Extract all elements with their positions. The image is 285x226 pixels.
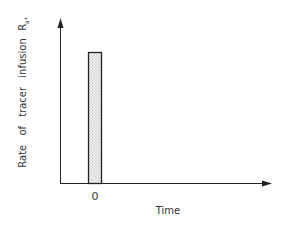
y-axis-arrow-icon <box>58 18 64 28</box>
x-axis-arrow-icon <box>262 181 272 187</box>
y-axis-label: Rate of tracer infusion <box>17 38 28 167</box>
chart-figure: 0 Time Rate of tracer infusion Ra* <box>0 0 285 226</box>
infusion-bar <box>89 53 102 184</box>
y-axis-label-group: Rate of tracer infusion <box>17 38 28 167</box>
x-axis-label: Time <box>155 205 180 216</box>
x-tick-label-0: 0 <box>92 190 99 203</box>
y-axis-symbol: Ra* <box>17 17 30 31</box>
y-axis-symbol-group: Ra* <box>17 17 30 31</box>
